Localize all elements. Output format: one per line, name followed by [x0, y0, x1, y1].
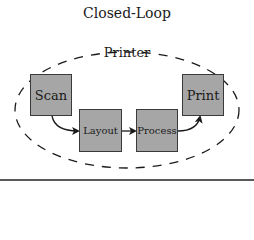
- node-print-label: Print: [187, 88, 220, 103]
- node-scan: Scan: [30, 74, 72, 116]
- node-print: Print: [182, 74, 224, 116]
- printer-label: Printer: [0, 45, 254, 60]
- node-layout-label: Layout: [83, 125, 118, 136]
- node-process: Process: [136, 109, 178, 152]
- arrow-scan-to-layout: [52, 116, 78, 131]
- arrow-process-to-print: [178, 117, 200, 131]
- node-layout: Layout: [79, 109, 122, 152]
- bottom-divider: [0, 179, 254, 181]
- node-process-label: Process: [137, 125, 176, 136]
- node-scan-label: Scan: [35, 88, 67, 103]
